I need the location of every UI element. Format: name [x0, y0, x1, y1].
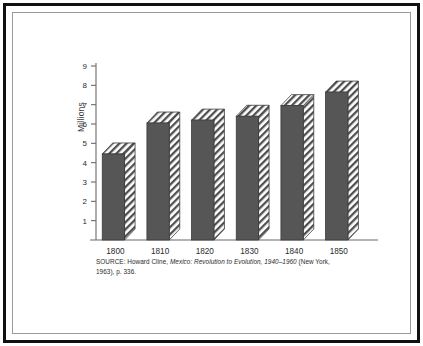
y-axis-title: Millions	[76, 118, 86, 132]
y-tick-label: 1	[83, 217, 88, 226]
bar-1830	[236, 105, 269, 240]
bar-side-face	[214, 109, 224, 240]
x-tick-labels: 180018101820183018401850	[106, 247, 348, 256]
x-tick-label: 1830	[240, 247, 259, 256]
y-tick-label: 8	[83, 81, 88, 90]
bar-front-face	[192, 120, 214, 240]
bar-front-face	[326, 92, 348, 240]
chart-plot-area: 123456789 180018101820183018401850 Milli…	[14, 14, 409, 332]
figure-page: 123456789 180018101820183018401850 Milli…	[0, 0, 423, 346]
bar-front-face	[102, 154, 124, 240]
y-tick-label: 5	[83, 139, 88, 148]
bar-side-face	[169, 112, 179, 240]
y-tick-label: 2	[83, 197, 88, 206]
x-tick-label: 1850	[330, 247, 349, 256]
y-tick-label: 9	[83, 62, 88, 71]
bar-side-face	[303, 95, 313, 240]
y-tick-label: 3	[83, 178, 88, 187]
bar-1810	[147, 112, 180, 240]
caption-prefix: SOURCE: Howard Cline,	[96, 258, 170, 265]
bar-1840	[281, 95, 314, 240]
bar-chart-svg: 123456789 180018101820183018401850	[14, 14, 409, 332]
figure-content: 123456789 180018101820183018401850 Milli…	[14, 14, 409, 332]
bar-1820	[192, 109, 225, 240]
x-tick-label: 1800	[106, 247, 125, 256]
y-axis-title-text: Millions	[76, 118, 86, 132]
x-tick-label: 1810	[151, 247, 170, 256]
bar-side-face	[125, 143, 135, 240]
bar-front-face	[281, 106, 303, 240]
x-tick-label: 1840	[285, 247, 304, 256]
bar-side-face	[348, 81, 358, 240]
bar-front-face	[147, 123, 169, 240]
caption-title: Mexico: Revolution to Evolution, 1940–19…	[170, 258, 297, 265]
x-tick-label: 1820	[196, 247, 215, 256]
source-caption: SOURCE: Howard Cline, Mexico: Revolution…	[96, 257, 346, 277]
bar-1850	[326, 81, 359, 240]
bar-1800	[102, 143, 135, 240]
bar-side-face	[259, 105, 269, 240]
bar-front-face	[236, 116, 258, 240]
bars-group	[102, 81, 358, 240]
y-tick-label: 4	[83, 159, 88, 168]
